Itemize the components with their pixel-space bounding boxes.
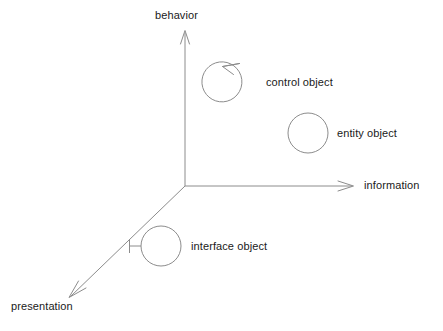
diagram-canvas	[0, 0, 443, 331]
entity-object-circle	[288, 113, 328, 153]
object-label-entity-object: entity object	[337, 128, 397, 139]
axis-behavior	[181, 31, 190, 187]
interface-object-circle	[141, 226, 181, 266]
object-space-diagram: behavior information presentation contro…	[0, 0, 443, 331]
axis-label-presentation: presentation	[11, 301, 73, 312]
object-label-interface-object: interface object	[191, 241, 267, 252]
axis-label-information: information	[364, 180, 420, 191]
object-label-control-object: control object	[266, 77, 333, 88]
control-object-shape	[202, 62, 242, 102]
control-object-circle	[202, 62, 242, 102]
presentation-axis-line	[71, 186, 186, 297]
axis-presentation	[69, 186, 185, 298]
entity-object-shape	[288, 113, 328, 153]
axis-information	[185, 181, 354, 191]
axis-label-behavior: behavior	[155, 10, 198, 21]
